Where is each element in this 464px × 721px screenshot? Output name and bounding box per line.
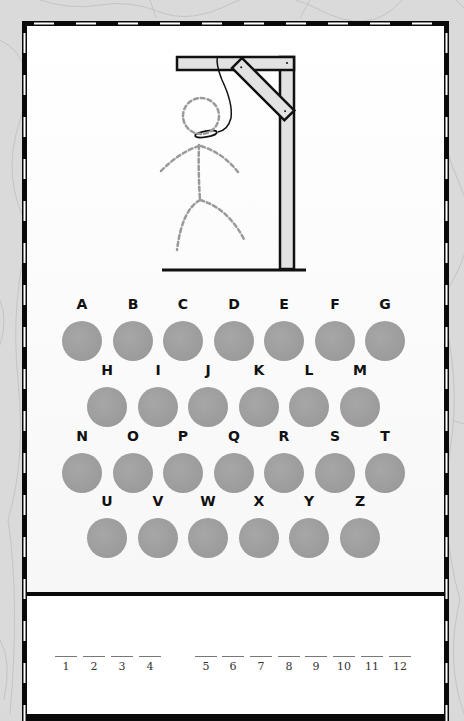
letter-label-d: D	[219, 296, 249, 312]
letter-button-e[interactable]	[264, 321, 304, 361]
gallows-post	[280, 57, 294, 269]
letter-button-w[interactable]	[188, 518, 228, 558]
letter-label-x: X	[244, 493, 274, 509]
letter-blank: 7	[250, 656, 272, 673]
letter-label-e: E	[269, 296, 299, 312]
blank-position-number: 12	[389, 660, 411, 673]
letter-label-q: Q	[219, 428, 249, 444]
letter-label-z: Z	[345, 493, 375, 509]
letter-button-k[interactable]	[239, 387, 279, 427]
letter-label-l: L	[294, 362, 324, 378]
letter-label-h: H	[92, 362, 122, 378]
blank-position-number: 9	[305, 660, 327, 673]
letter-button-l[interactable]	[289, 387, 329, 427]
letter-button-q[interactable]	[214, 453, 254, 493]
blank-underline	[222, 656, 244, 657]
letter-blank: 4	[139, 656, 161, 673]
letter-button-f[interactable]	[315, 321, 355, 361]
letter-blank: 12	[389, 656, 411, 673]
letter-label-s: S	[320, 428, 350, 444]
letter-blank: 6	[222, 656, 244, 673]
blank-position-number: 2	[83, 660, 105, 673]
letter-button-b[interactable]	[113, 321, 153, 361]
letter-blank: 2	[83, 656, 105, 673]
letter-button-r[interactable]	[264, 453, 304, 493]
blank-position-number: 1	[55, 660, 77, 673]
letter-button-m[interactable]	[340, 387, 380, 427]
letter-button-z[interactable]	[340, 518, 380, 558]
blank-underline	[278, 656, 300, 657]
letter-label-a: A	[67, 296, 97, 312]
letter-label-r: R	[269, 428, 299, 444]
blank-underline	[83, 656, 105, 657]
letter-label-c: C	[168, 296, 198, 312]
blank-position-number: 11	[361, 660, 383, 673]
blank-position-number: 10	[333, 660, 355, 673]
letter-blank: 8	[278, 656, 300, 673]
letter-button-u[interactable]	[87, 518, 127, 558]
letter-blank: 3	[111, 656, 133, 673]
blank-position-number: 8	[278, 660, 300, 673]
word-panel	[27, 596, 444, 714]
letter-label-o: O	[118, 428, 148, 444]
letter-label-m: M	[345, 362, 375, 378]
letter-label-i: I	[143, 362, 173, 378]
blank-underline	[111, 656, 133, 657]
blank-underline	[250, 656, 272, 657]
blank-position-number: 5	[195, 660, 217, 673]
letter-label-j: J	[193, 362, 223, 378]
blank-underline	[333, 656, 355, 657]
letter-button-a[interactable]	[62, 321, 102, 361]
letter-blank: 10	[333, 656, 355, 673]
letter-label-g: G	[370, 296, 400, 312]
blank-position-number: 6	[222, 660, 244, 673]
letter-button-h[interactable]	[87, 387, 127, 427]
letter-label-p: P	[168, 428, 198, 444]
letter-button-g[interactable]	[365, 321, 405, 361]
letter-button-s[interactable]	[315, 453, 355, 493]
blank-position-number: 3	[111, 660, 133, 673]
gallows-drawing	[150, 40, 320, 280]
blank-position-number: 4	[139, 660, 161, 673]
letter-label-b: B	[118, 296, 148, 312]
blank-position-number: 7	[250, 660, 272, 673]
stick-figure	[161, 98, 245, 250]
letter-label-w: W	[193, 493, 223, 509]
blank-underline	[139, 656, 161, 657]
letter-label-u: U	[92, 493, 122, 509]
letter-label-t: T	[370, 428, 400, 444]
blank-underline	[195, 656, 217, 657]
letter-button-t[interactable]	[365, 453, 405, 493]
letter-button-c[interactable]	[163, 321, 203, 361]
letter-label-y: Y	[294, 493, 324, 509]
letter-button-v[interactable]	[138, 518, 178, 558]
letter-blank: 9	[305, 656, 327, 673]
letter-button-y[interactable]	[289, 518, 329, 558]
letter-button-o[interactable]	[113, 453, 153, 493]
letter-button-p[interactable]	[163, 453, 203, 493]
letter-blank: 11	[361, 656, 383, 673]
blank-underline	[361, 656, 383, 657]
letter-label-f: F	[320, 296, 350, 312]
letter-blank: 5	[195, 656, 217, 673]
letter-button-i[interactable]	[138, 387, 178, 427]
blank-underline	[305, 656, 327, 657]
letter-button-j[interactable]	[188, 387, 228, 427]
letter-button-d[interactable]	[214, 321, 254, 361]
letter-label-v: V	[143, 493, 173, 509]
blank-underline	[389, 656, 411, 657]
letter-label-k: K	[244, 362, 274, 378]
letter-blank: 1	[55, 656, 77, 673]
blank-underline	[55, 656, 77, 657]
letter-button-x[interactable]	[239, 518, 279, 558]
letter-label-n: N	[67, 428, 97, 444]
letter-button-n[interactable]	[62, 453, 102, 493]
